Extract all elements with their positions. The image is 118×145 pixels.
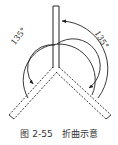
right-arm xyxy=(56,67,111,119)
right-angle-label: 135° xyxy=(93,29,111,50)
inner-arc-right-segment xyxy=(57,39,100,88)
left-arm xyxy=(9,67,57,119)
left-angle-label: 135° xyxy=(9,26,28,47)
bending-diagram: 135° 135° xyxy=(0,0,118,145)
figure-caption: 图 2-55 折曲示意 xyxy=(0,127,118,140)
figure-number: 图 2-55 xyxy=(20,129,52,139)
vertical-bar xyxy=(53,6,59,68)
figure-title: 折曲示意 xyxy=(62,129,98,139)
